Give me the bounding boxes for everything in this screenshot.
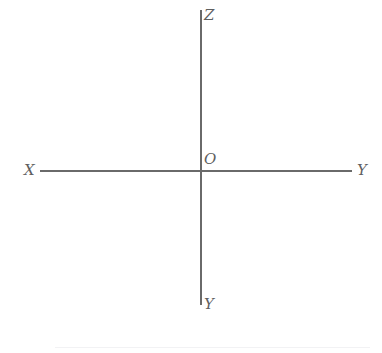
y-axis-right-label: Y — [357, 163, 367, 178]
z-axis-label: Z — [204, 8, 215, 23]
y-axis-bottom-label: Y — [204, 297, 214, 312]
x-axis-label: X — [24, 163, 35, 178]
origin-label: O — [204, 152, 217, 167]
coordinate-axes-figure: Z O X Y Y — [0, 0, 382, 353]
axes-drawing — [0, 0, 382, 353]
